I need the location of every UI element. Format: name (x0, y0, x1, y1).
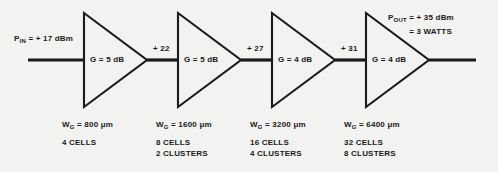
output-port-watts: = 3 WATTS (388, 26, 454, 37)
input-port-value: = + 17 dBm (28, 34, 73, 43)
gate-width-subscript-4: G (352, 124, 357, 130)
gate-width-stage-3: WG = 3200 μm (250, 119, 306, 133)
gate-width-symbol-3: W (250, 120, 258, 129)
gate-width-stage-1: WG = 800 μm (62, 119, 113, 133)
cells-stage-4: 32 CELLS (344, 137, 383, 148)
input-port-label: PIN = + 17 dBm (14, 33, 73, 47)
gate-width-value-3: = 3200 (265, 120, 291, 129)
gain-label-stage-4: G = 4 dB (372, 55, 406, 64)
gate-width-subscript-2: G (164, 124, 169, 130)
output-port-subscript: OUT (394, 17, 407, 23)
interstage-level-3: + 31 (341, 44, 358, 53)
gate-width-value-4: = 6400 (359, 120, 385, 129)
output-port-label: POUT = + 35 dBm = 3 WATTS (388, 12, 454, 37)
gain-label-stage-1: G = 5 dB (90, 55, 124, 64)
gate-width-subscript-1: G (70, 124, 75, 130)
gate-width-stage-4: WG = 6400 μm (344, 119, 400, 133)
gate-width-unit-1: μm (101, 120, 113, 129)
interstage-level-1: + 22 (153, 44, 170, 53)
clusters-stage-4: 8 CLUSTERS (344, 148, 396, 159)
gate-width-unit-4: μm (387, 120, 399, 129)
gate-width-symbol-4: W (344, 120, 352, 129)
gain-label-stage-2: G = 5 dB (184, 55, 218, 64)
gate-width-symbol-1: W (62, 120, 70, 129)
clusters-stage-2: 2 CLUSTERS (156, 148, 208, 159)
gate-width-value-1: = 800 (77, 120, 98, 129)
gate-width-stage-2: WG = 1600 μm (156, 119, 212, 133)
gate-width-subscript-3: G (258, 124, 263, 130)
interstage-level-2: + 27 (247, 44, 264, 53)
gate-width-value-2: = 1600 (171, 120, 197, 129)
cells-stage-1: 4 CELLS (62, 137, 96, 148)
output-port-value: = + 35 dBm (409, 13, 454, 22)
gate-width-unit-3: μm (293, 120, 305, 129)
output-port-line1: POUT = + 35 dBm (388, 12, 454, 26)
cells-stage-3: 16 CELLS (250, 137, 289, 148)
gain-label-stage-3: G = 4 dB (278, 55, 312, 64)
clusters-stage-3: 4 CLUSTERS (250, 148, 302, 159)
gate-width-unit-2: μm (199, 120, 211, 129)
input-port-subscript: IN (20, 38, 26, 44)
cells-stage-2: 8 CELLS (156, 137, 190, 148)
gate-width-symbol-2: W (156, 120, 164, 129)
